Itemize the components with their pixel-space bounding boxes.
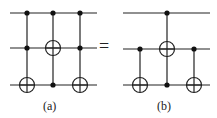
control-dot-icon — [164, 10, 169, 15]
control-dot-icon — [50, 10, 55, 15]
control-dot-icon — [50, 82, 55, 87]
control-dot-icon — [24, 45, 29, 50]
panel-b-label: (b) — [157, 99, 171, 114]
control-dot-icon — [191, 46, 196, 51]
control-dot-icon — [77, 10, 82, 15]
circuit-diagram — [0, 0, 217, 118]
equals-sign: = — [99, 36, 109, 57]
control-dot-icon — [164, 82, 169, 87]
panel-a-label: (a) — [43, 99, 56, 114]
control-dot-icon — [137, 46, 142, 51]
control-dot-icon — [24, 10, 29, 15]
control-dot-icon — [77, 45, 82, 50]
